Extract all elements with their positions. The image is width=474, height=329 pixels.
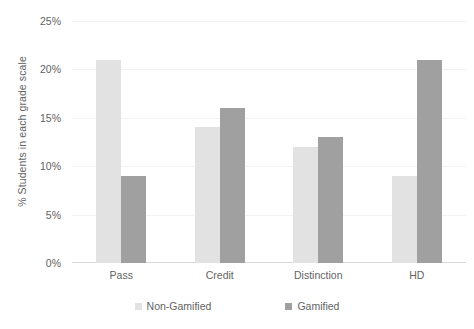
y-axis-tick-label: 20% [40,63,61,75]
bar-chart: % Students in each grade scale 0%5%10%15… [0,0,474,329]
bar-group-bars [269,21,368,263]
bar-group [269,21,368,263]
bar[interactable] [195,127,220,263]
x-axis-tick-label: Distinction [269,266,368,284]
bar-groups [72,21,466,263]
bar[interactable] [318,137,343,263]
legend-item[interactable]: Gamified [285,300,339,312]
x-axis-tick-label: HD [368,266,467,284]
bar-group-bars [171,21,270,263]
legend-swatch-icon [285,303,292,310]
bar-group [368,21,467,263]
bar[interactable] [293,147,318,263]
bar-group-bars [72,21,171,263]
bar-group-bars [368,21,467,263]
legend: Non-GamifiedGamified [0,296,474,316]
x-axis-tick-label: Credit [171,266,270,284]
bar-group [171,21,270,263]
bar[interactable] [392,176,417,263]
x-axis-tick-label: Pass [72,266,171,284]
bar[interactable] [220,108,245,263]
legend-label: Gamified [297,300,339,312]
x-axis-tick-labels: PassCreditDistinctionHD [72,266,466,284]
y-axis-tick-label: 5% [46,209,61,221]
bar[interactable] [96,60,121,263]
bar-group [72,21,171,263]
y-axis-tick-label: 25% [40,15,61,27]
bar[interactable] [121,176,146,263]
y-axis-tick-label: 10% [40,160,61,172]
legend-label: Non-Gamified [147,300,212,312]
y-axis-tick-labels: 0%5%10%15%20%25% [0,21,66,263]
plot-area [72,21,466,263]
y-axis-tick-label: 0% [46,257,61,269]
legend-item[interactable]: Non-Gamified [135,300,212,312]
bar[interactable] [417,60,442,263]
y-axis-tick-label: 15% [40,112,61,124]
legend-swatch-icon [135,303,142,310]
